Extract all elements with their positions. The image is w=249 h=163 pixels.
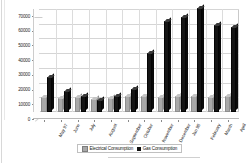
bar-side-face [236, 23, 238, 110]
bar-gas-april [231, 27, 236, 112]
x-axis-tick-mark [161, 120, 162, 122]
bar-electrical-july [75, 97, 80, 112]
x-axis-tick-mark [178, 120, 179, 122]
category-separator [122, 9, 123, 112]
x-axis-tick-label: Jan 98 [191, 123, 201, 137]
x-axis-tick-mark [94, 120, 95, 122]
y-axis-tick-label: 40000 [18, 58, 30, 63]
page-edge-rule [1, 0, 2, 163]
bar-gas-march [214, 25, 219, 112]
bar-electrical-august [91, 99, 96, 112]
bar-face [108, 98, 113, 112]
y-axis-tick-label: 70000 [18, 14, 30, 19]
plot-depth-face [33, 9, 40, 119]
bar-face [208, 97, 213, 112]
x-axis-tick-mark [111, 120, 112, 122]
y-axis-tick-label: 20000 [18, 87, 30, 92]
x-axis-tick-label: May 97 [58, 123, 69, 138]
bar-face [191, 96, 196, 112]
x-axis-tick-label: December [178, 123, 192, 143]
x-axis-tick-mark [78, 120, 79, 122]
category-separator [206, 9, 207, 112]
consumption-bar-chart: 010000200003000040000500006000070000 May… [0, 0, 249, 163]
legend-swatch-gas-icon [137, 147, 141, 151]
bar-face [175, 96, 180, 112]
bar-face [214, 25, 219, 112]
bar-face [141, 96, 146, 112]
x-axis-tick-mark [228, 120, 229, 122]
x-axis-tick-label: October [142, 123, 153, 139]
bar-face [75, 97, 80, 112]
bar-gas-december [164, 21, 169, 112]
bar-side-face [186, 13, 188, 110]
bar-face [58, 98, 63, 112]
x-axis-tick-label: April [238, 123, 246, 133]
category-separator [172, 9, 173, 112]
y-axis-tick-label: 30000 [18, 72, 30, 77]
legend-item-gas: Gas Consumption [137, 146, 177, 151]
x-axis-tick-mark [61, 120, 62, 122]
bar-gas-june [64, 91, 69, 112]
bar-electrical-december [158, 97, 163, 112]
bar-gas-october [131, 89, 136, 112]
bar-face [131, 89, 136, 112]
plot-floor [33, 112, 239, 119]
category-separator [72, 9, 73, 112]
bar-face [81, 96, 86, 112]
bar-electrical-november [141, 96, 146, 112]
bar-face [97, 100, 102, 112]
y-axis-tick-mark [32, 119, 34, 120]
bar-electrical-june [58, 98, 63, 112]
page-edge-rule-secondary [4, 0, 5, 120]
bar-gas-july [81, 96, 86, 112]
bar-gas-august [97, 100, 102, 112]
bar-side-face [169, 17, 171, 110]
bar-face [47, 77, 52, 112]
x-axis-tick-label: February [210, 123, 222, 141]
bar-side-face [219, 21, 221, 110]
bar-gas-september [114, 96, 119, 112]
bar-face [41, 97, 46, 112]
bar-electrical-april [225, 96, 230, 112]
bar-face [147, 53, 152, 112]
x-axis-tick-mark [44, 120, 45, 122]
chart-legend: Electrical Consumption Gas Consumption [77, 144, 182, 153]
legend-item-electrical: Electrical Consumption [82, 146, 133, 152]
legend-swatch-electrical-icon [82, 146, 88, 152]
x-axis-tick-mark [194, 120, 195, 122]
bar-face [64, 91, 69, 112]
y-axis-tick-label: 50000 [18, 43, 30, 48]
x-axis-tick-label: August [108, 123, 119, 137]
bar-electrical-march [208, 97, 213, 112]
bar-face [114, 96, 119, 112]
y-axis-tick-label: 0 [28, 117, 30, 122]
bar-face [158, 97, 163, 112]
bar-gas-november [147, 53, 152, 112]
bar-electrical-october [125, 96, 130, 112]
bar-face [164, 21, 169, 112]
bar-electrical-may-97 [41, 97, 46, 112]
plot-area [33, 9, 239, 119]
y-axis-tick-label: 60000 [18, 28, 30, 33]
bar-face [231, 27, 236, 112]
bar-gas-may-97 [47, 77, 52, 112]
category-separator [156, 9, 157, 112]
bar-electrical-jan-98 [175, 96, 180, 112]
legend-label-electrical: Electrical Consumption [90, 146, 134, 151]
x-axis-tick-label: July [88, 123, 96, 132]
x-axis-tick-label: November [161, 123, 175, 143]
bar-gas-jan-98 [181, 17, 186, 112]
bar-gas-february [197, 8, 202, 112]
bar-electrical-september [108, 98, 113, 112]
x-axis-tick-mark [144, 120, 145, 122]
category-separator [56, 9, 57, 112]
bar-face [197, 8, 202, 112]
bar-electrical-february [191, 96, 196, 112]
bar-face [91, 99, 96, 112]
category-separator [89, 9, 90, 112]
x-axis-tick-label: September [129, 123, 143, 144]
y-axis-tick-label: 10000 [18, 102, 30, 107]
legend-label-gas: Gas Consumption [143, 146, 178, 151]
bar-face [225, 96, 230, 112]
x-axis-tick-mark [211, 120, 212, 122]
